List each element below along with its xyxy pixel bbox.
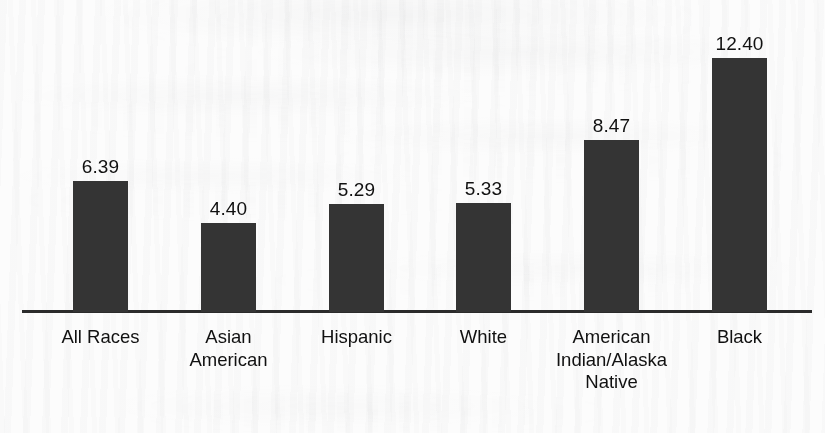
- bar-black: [712, 58, 767, 312]
- bar-value-label: 5.33: [456, 179, 511, 198]
- bar-value-label: 6.39: [73, 157, 128, 176]
- bar-value-label: 5.29: [329, 180, 384, 199]
- bar-hispanic: [329, 204, 384, 312]
- bar-all-races: [73, 181, 128, 312]
- bar-value-label: 8.47: [584, 116, 639, 135]
- bar-value-label: 4.40: [201, 199, 256, 218]
- category-label-line: Black: [649, 326, 825, 349]
- bar-asian-american: [201, 223, 256, 312]
- plot-area: 6.39 All Races 4.40 Asian American 5.29 …: [0, 0, 825, 433]
- bar-group-black: 12.40: [712, 0, 767, 312]
- category-label-line: American: [138, 349, 319, 372]
- category-label-line: Indian/Alaska: [521, 349, 702, 372]
- bar-chart-figure: 6.39 All Races 4.40 Asian American 5.29 …: [0, 0, 825, 433]
- bar-american-indian-alaska-native: [584, 140, 639, 312]
- bar-group-all-races: 6.39: [73, 0, 128, 312]
- bar-group-american-indian-alaska-native: 8.47: [584, 0, 639, 312]
- bar-group-hispanic: 5.29: [329, 0, 384, 312]
- bar-group-asian-american: 4.40: [201, 0, 256, 312]
- bar-group-white: 5.33: [456, 0, 511, 312]
- bar-value-label: 12.40: [712, 34, 767, 53]
- bar-white: [456, 203, 511, 312]
- category-label-black: Black: [649, 326, 825, 349]
- x-axis-baseline: [22, 310, 812, 313]
- category-label-line: Native: [521, 371, 702, 394]
